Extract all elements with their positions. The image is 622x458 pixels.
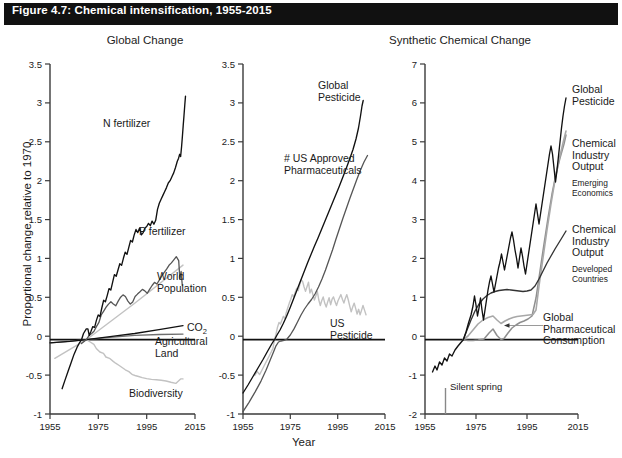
p2-ytick-1: 1 — [230, 253, 235, 264]
p2-ytick-0: 0 — [230, 331, 235, 342]
anno-chemical-industry-output-emerging: Chemical Industry Output — [572, 138, 616, 173]
anno-world-population: World Population — [157, 271, 207, 294]
p2-ytick-m1: -1 — [227, 409, 235, 420]
p2-xtick-1955: 1955 — [232, 421, 253, 432]
p3-xtick-2015: 2015 — [567, 421, 588, 432]
p1-ytick-m0_5: -0.5 — [26, 370, 42, 381]
p2-ytick-m0_5: -0.5 — [219, 370, 235, 381]
panel-heading-synthetic-chemical-change: Synthetic Chemical Change — [330, 34, 590, 46]
p2-ytick-0_5: 0.5 — [222, 292, 235, 303]
anno-n-fertilizer: N fertilizer — [103, 118, 150, 130]
p2-x-ticklabels: 1955 1975 1995 2015 — [232, 421, 395, 432]
series-us-approved-pharmaceuticals — [243, 156, 368, 412]
p2-xtick-2015: 2015 — [374, 421, 395, 432]
anno-co2-label: CO — [187, 321, 203, 333]
p1-ytick-0_5: 0.5 — [29, 292, 42, 303]
p1-y-ticklabels: 3.5 3 2.5 2 1.5 1 0.5 0 -0.5 -1 — [26, 59, 42, 420]
x-axis-title: Year — [292, 436, 315, 448]
p3-ytick-0: 0 — [412, 331, 417, 342]
p1-xtick-1955: 1955 — [39, 421, 60, 432]
panel-heading-global-change: Global Change — [55, 34, 235, 46]
p1-xtick-1995: 1995 — [136, 421, 157, 432]
p3-ytick-5: 5 — [412, 136, 417, 147]
anno-global-pesticide-mid: Global Pesticide — [318, 80, 361, 103]
p1-ytick-3: 3 — [37, 97, 42, 108]
p1-ytick-3_5: 3.5 — [29, 59, 42, 70]
p1-ytick-2_5: 2.5 — [29, 136, 42, 147]
p2-y-ticks — [238, 64, 243, 414]
p1-xtick-1975: 1975 — [88, 421, 109, 432]
series-global-pesticide-mid — [243, 101, 363, 394]
anno-global-pesticide-right: Global Pesticide — [572, 84, 615, 107]
p3-x-ticks — [425, 414, 578, 419]
anno-co2: CO2 — [187, 310, 207, 337]
p3-ytick-m1: -1 — [409, 370, 417, 381]
p1-x-ticks — [50, 414, 195, 419]
p1-ytick-1_5: 1.5 — [29, 214, 42, 225]
figure-root: Figure 4.7: Chemical intensification, 19… — [0, 0, 622, 458]
p1-ytick-0: 0 — [37, 331, 42, 342]
p1-x-ticklabels: 1955 1975 1995 2015 — [39, 421, 205, 432]
anno-global-pharmaceutical-consumption: Global Pharmaceutical Consumption — [543, 312, 615, 347]
p2-ytick-2: 2 — [230, 175, 235, 186]
p3-xtick-1955: 1955 — [414, 421, 435, 432]
p3-ytick-6: 6 — [412, 97, 417, 108]
p3-xtick-1995: 1995 — [516, 421, 537, 432]
p1-y-ticks — [45, 64, 50, 414]
p3-ytick-4: 4 — [412, 175, 417, 186]
anno-p-fertilizer: P fertilizer — [139, 226, 186, 238]
anno-us-approved-pharmaceuticals: # US Approved Pharmaceuticals — [284, 153, 362, 176]
p1-ytick-2: 2 — [37, 175, 42, 186]
figure-title: Figure 4.7: Chemical intensification, 19… — [12, 4, 272, 16]
anno-us-pesticide: US Pesticide — [330, 318, 373, 341]
p1-ytick-m1: -1 — [34, 409, 42, 420]
p2-xtick-1975: 1975 — [280, 421, 301, 432]
p3-ytick-3: 3 — [412, 214, 417, 225]
p3-xtick-1975: 1975 — [465, 421, 486, 432]
anno-biodiversity: Biodiversity — [129, 388, 183, 400]
anno-silent-spring: Silent spring — [450, 381, 502, 392]
p2-x-ticks — [243, 414, 385, 419]
p3-ytick-1: 1 — [412, 292, 417, 303]
p3-y-ticklabels: 7 6 5 4 3 2 1 0 -1 -2 — [409, 59, 417, 420]
plot-global-change: 3.5 3 2.5 2 1.5 1 0.5 0 -0.5 -1 1955 197… — [25, 58, 225, 428]
p3-x-ticklabels: 1955 1975 1995 2015 — [414, 421, 588, 432]
p2-xtick-1995: 1995 — [327, 421, 348, 432]
anno-chemical-industry-output-developed: Chemical Industry Output — [572, 224, 616, 259]
p2-ytick-1_5: 1.5 — [222, 214, 235, 225]
pharma-leader-arrow — [504, 323, 510, 327]
p3-y-ticks — [420, 64, 425, 414]
p1-xtick-2015: 2015 — [184, 421, 205, 432]
p2-ytick-3_5: 3.5 — [222, 59, 235, 70]
anno-chemical-industry-output-emerging-sub: Emerging Economics — [572, 178, 613, 198]
p2-ytick-3: 3 — [230, 97, 235, 108]
p2-ytick-2_5: 2.5 — [222, 136, 235, 147]
p3-ytick-m2: -2 — [409, 409, 417, 420]
anno-agricultural-land: Agricultural Land — [155, 336, 208, 359]
p3-ytick-7: 7 — [412, 59, 417, 70]
p1-ytick-1: 1 — [37, 253, 42, 264]
p2-y-ticklabels: 3.5 3 2.5 2 1.5 1 0.5 0 -0.5 -1 — [219, 59, 235, 420]
plot-synthetic-chemical-change-mid: 3.5 3 2.5 2 1.5 1 0.5 0 -0.5 -1 1955 197… — [218, 58, 418, 428]
p3-ytick-2: 2 — [412, 253, 417, 264]
anno-chemical-industry-output-developed-sub: Developed Countries — [572, 264, 612, 284]
